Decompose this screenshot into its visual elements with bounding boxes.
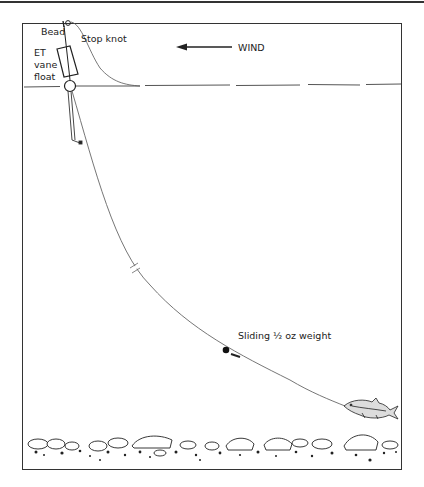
stop-knot-label: Stop knot	[81, 33, 127, 44]
float-label-line1: ET	[34, 47, 46, 58]
weight-label: Sliding ½ oz weight	[238, 330, 331, 341]
wind-label: WIND	[238, 42, 265, 53]
wind-arrow-icon	[176, 44, 232, 51]
float-label-line2: vane	[34, 59, 57, 70]
swivel-icon	[231, 354, 240, 357]
main-line	[72, 91, 345, 406]
rig-illustration	[0, 0, 424, 487]
float-label-line3: float	[34, 71, 55, 82]
bead-label: Bead	[41, 26, 65, 37]
bait-fish-icon	[344, 398, 398, 419]
water-surface-line	[24, 84, 401, 87]
sliding-weight-icon	[223, 347, 230, 354]
slack-line	[71, 22, 140, 86]
river-bed-gravel	[35, 450, 398, 462]
bead-icon	[66, 21, 71, 26]
river-bed-stones	[28, 435, 398, 456]
